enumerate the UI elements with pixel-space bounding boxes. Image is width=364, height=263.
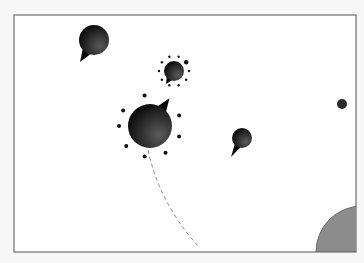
bubble-body-icon [232,128,252,148]
ring-dot-icon [161,61,163,63]
orbit-dot-icon [121,109,125,113]
orbit-dot-icon [143,155,147,159]
ring-dot-icon [177,84,179,86]
player-body-icon [128,104,172,148]
ring-dot-icon [161,79,163,81]
bubble-body-icon [164,61,184,81]
ring-dot-icon [158,70,160,72]
ring-dot-icon [184,60,188,64]
orbit-dot-icon [124,144,128,148]
playfield-frame [14,15,356,252]
ring-dot-icon [177,56,179,58]
ring-dot-icon [168,56,170,58]
game-stage[interactable] [0,0,364,263]
orbit-dot-icon [177,113,181,117]
ring-dot-icon [168,84,170,86]
orbit-dot-icon [164,151,168,155]
pellet-icon [337,99,347,109]
game-canvas[interactable] [0,0,364,263]
ring-dot-icon [188,70,190,72]
orbit-dot-icon [117,124,121,128]
bubble-body-icon [79,25,109,55]
ring-dot-icon [185,79,187,81]
orbit-dot-icon [177,135,181,139]
orbit-dot-icon [143,93,147,97]
